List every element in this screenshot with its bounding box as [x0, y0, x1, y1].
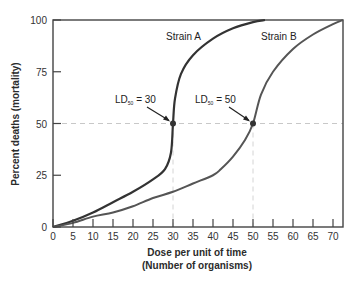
- x-tick-label: 10: [87, 231, 99, 242]
- y-tick-label: 100: [30, 15, 47, 26]
- x-tick-label: 40: [207, 231, 219, 242]
- strain-a-label: Strain A: [166, 31, 201, 42]
- y-axis-title: Percent deaths (mortality): [10, 62, 21, 185]
- x-tick-label: 5: [70, 231, 76, 242]
- y-tick-label: 0: [41, 222, 47, 233]
- x-axis-title-line1: Dose per unit of time: [147, 247, 247, 258]
- y-tick-label: 50: [36, 119, 48, 130]
- x-tick-label: 0: [50, 231, 56, 242]
- x-tick-label: 50: [247, 231, 259, 242]
- x-tick-label: 25: [147, 231, 159, 242]
- arrow-head-icon: [163, 116, 170, 122]
- x-tick-label: 45: [227, 231, 239, 242]
- x-tick-label: 70: [327, 231, 339, 242]
- x-tick-label: 65: [307, 231, 319, 242]
- ld50-strain-a-label: LD50 = 30: [115, 94, 156, 106]
- x-tick-label: 35: [187, 231, 199, 242]
- x-tick-label: 60: [287, 231, 299, 242]
- x-tick-label: 55: [267, 231, 279, 242]
- strain-b-label: Strain B: [261, 31, 297, 42]
- x-tick-label: 15: [107, 231, 119, 242]
- ld50-point-a: [170, 121, 176, 127]
- x-tick-label: 30: [167, 231, 179, 242]
- x-tick-label: 20: [127, 231, 139, 242]
- x-axis-title-line2: (Number of organisms): [142, 260, 252, 271]
- ld50-strain-b-label: LD50 = 50: [195, 94, 236, 106]
- dose-response-chart: 05101520253035404550556065700255075100 S…: [0, 0, 349, 282]
- y-tick-label: 75: [36, 67, 48, 78]
- ld50-point-b: [250, 121, 256, 127]
- y-tick-label: 25: [36, 170, 48, 181]
- arrow-head-icon: [243, 116, 250, 122]
